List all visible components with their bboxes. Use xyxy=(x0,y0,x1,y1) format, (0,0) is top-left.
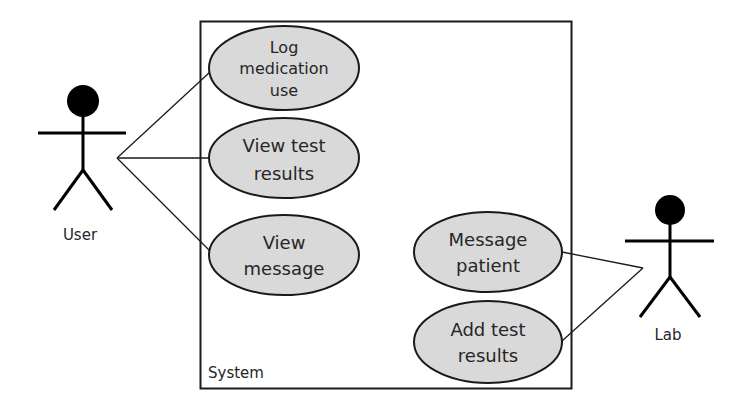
use-case-diagram: System Log medication use View test resu… xyxy=(0,0,745,404)
use-case-label: message xyxy=(244,258,325,279)
association-user-log-medication xyxy=(117,72,210,158)
use-case-label: View xyxy=(263,232,306,253)
use-case-log-medication[interactable]: Log medication use xyxy=(209,26,359,110)
use-case-label: Log xyxy=(270,38,299,57)
use-case-label: patient xyxy=(456,255,520,276)
use-case-label: Add test xyxy=(450,319,525,340)
association-lab-message-patient xyxy=(562,252,643,268)
actor-label: Lab xyxy=(654,326,681,344)
use-case-message-patient[interactable]: Message patient xyxy=(414,212,562,292)
actor-label: User xyxy=(63,226,98,244)
use-case-label: results xyxy=(458,345,518,366)
actor-user[interactable]: User xyxy=(38,85,126,244)
use-case-label: View test xyxy=(242,135,325,156)
use-case-label: medication xyxy=(239,59,328,78)
use-case-label: Message xyxy=(449,229,528,250)
use-case-add-test-results[interactable]: Add test results xyxy=(414,301,562,383)
use-case-view-test-results[interactable]: View test results xyxy=(209,118,359,198)
association-lab-add-test-results xyxy=(562,268,643,341)
lab-associations xyxy=(562,252,643,341)
system-label: System xyxy=(208,364,264,382)
user-associations xyxy=(117,72,210,251)
use-case-view-message[interactable]: View message xyxy=(209,215,359,295)
stick-figure-icon xyxy=(625,195,714,317)
actor-lab[interactable]: Lab xyxy=(625,195,714,344)
stick-figure-icon xyxy=(38,85,126,210)
association-user-view-message xyxy=(117,158,210,251)
use-case-label: results xyxy=(254,163,314,184)
use-case-label: use xyxy=(270,81,298,100)
